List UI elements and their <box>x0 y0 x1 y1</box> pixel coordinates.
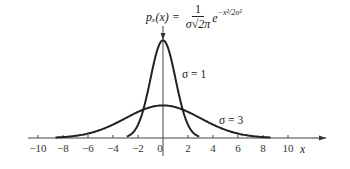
x-tick-label: −2 <box>132 142 144 154</box>
formula-exponent: −x²/2σ² <box>218 8 242 17</box>
x-tick-label: −4 <box>107 142 119 154</box>
x-tick-label: 2 <box>185 142 191 154</box>
formula-numerator: 1 <box>192 3 204 17</box>
x-axis-arrow-icon <box>319 136 326 141</box>
y-axis-arrow-icon <box>161 33 166 40</box>
x-tick-label: −6 <box>82 142 94 154</box>
x-axis-label: x <box>299 143 306 155</box>
formula-exponential: e−x²/2σ² <box>212 8 241 26</box>
formula-denominator: σ√2π <box>186 17 211 31</box>
formula-fraction: 1 σ√2π <box>186 3 211 31</box>
x-tick-label: 8 <box>260 142 266 154</box>
x-tick-labels: −10−8−6−4−20246810 <box>29 142 294 154</box>
x-tick-label: −8 <box>57 142 69 154</box>
formula-lhs: pₓ(x) = <box>146 10 180 25</box>
annotation-sigma-1: σ = 1 <box>182 68 206 80</box>
annotation-sigma-3: σ = 3 <box>219 114 243 126</box>
x-tick-label: −10 <box>29 142 47 154</box>
x-tick-label: 6 <box>235 142 241 154</box>
pdf-formula: pₓ(x) = 1 σ√2π e−x²/2σ² <box>146 3 242 31</box>
x-tick-label: 10 <box>283 142 295 154</box>
y-axis <box>161 26 166 156</box>
x-tick-label: 4 <box>210 142 216 154</box>
x-tick-label: 0 <box>157 142 163 154</box>
